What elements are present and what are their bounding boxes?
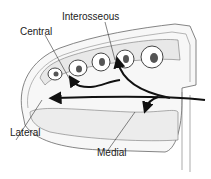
label-lateral: Lateral — [10, 128, 41, 138]
label-medial: Medial — [97, 148, 126, 158]
right-edge — [182, 92, 190, 172]
label-interosseous: Interosseous — [62, 12, 119, 22]
label-central: Central — [20, 27, 52, 37]
